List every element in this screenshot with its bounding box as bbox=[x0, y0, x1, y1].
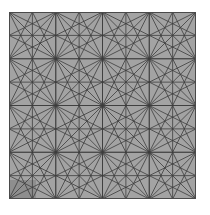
star-pattern-tile bbox=[9, 12, 196, 199]
pattern-lines bbox=[9, 12, 196, 199]
shaded-corner-patch bbox=[9, 180, 36, 199]
geometric-star-pattern bbox=[9, 12, 196, 199]
